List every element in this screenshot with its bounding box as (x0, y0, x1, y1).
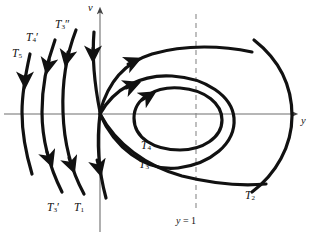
trajectory-label-T3: T3 (139, 159, 149, 171)
separatrix-in-upper-left (93, 32, 100, 112)
arrowhead-T3-double-prime-bottom (69, 158, 73, 169)
dashed-line-label: y = 1 (176, 216, 196, 226)
label-prime-T3-prime: ′ (57, 201, 60, 213)
trajectory-label-T1: T1 (74, 202, 84, 214)
arrowhead-T3-double-prime-top (66, 52, 68, 62)
label-sub-T1: 1 (80, 206, 84, 214)
label-sub-T3: 3 (145, 163, 149, 171)
v-axis-label: v (88, 3, 93, 14)
arrowhead-T4-prime-bottom (47, 152, 51, 163)
label-prime-T3-double-prime: ″ (65, 18, 70, 30)
trajectory-label-T3-double-prime: T3″ (55, 19, 70, 31)
trajectory-label-T4: T4 (141, 140, 151, 152)
y-axis-label: y (301, 116, 306, 127)
trajectory-label-T4-prime: T4′ (26, 32, 39, 44)
arrowhead-upper-right-arc (128, 60, 137, 64)
label-sub-T2: 2 (251, 194, 255, 202)
curve-T2-outer-orbit (252, 40, 292, 192)
trajectory-label-T2: T2 (245, 190, 255, 202)
dashed-line-equals: = (180, 215, 191, 226)
trajectory-label-T5: T5 (12, 48, 22, 60)
label-sub-T4: 4 (147, 144, 151, 152)
curve-T4-prime (42, 40, 62, 192)
arrowhead-T4-prime-top (47, 60, 49, 70)
dashed-line-value: 1 (191, 215, 196, 226)
label-prime-T4-prime: ′ (36, 31, 39, 43)
phase-plane-figure: v y y = 1 T5 T4′ T3″ T3′ T1 T4 T3 T2 (0, 0, 319, 240)
label-sub-T5: 5 (18, 52, 22, 60)
trajectory-label-T3-prime: T3′ (47, 202, 60, 214)
